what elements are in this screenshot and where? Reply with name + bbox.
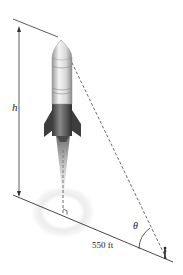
rocket-upper-body (52, 58, 72, 104)
rocket-fin-left (44, 110, 53, 137)
rocket-nose-cone (52, 40, 72, 60)
height-reference-line (13, 19, 58, 37)
distance-label: 550 ft (92, 241, 113, 250)
height-label: h (12, 102, 18, 113)
diagram-canvas (0, 0, 183, 275)
arrow-down-icon (17, 191, 21, 197)
rocket-lower-body (52, 103, 72, 136)
angle-theta-arc (139, 228, 150, 249)
arrow-up-icon (17, 26, 21, 32)
rocket-fin-right (71, 110, 81, 137)
rocket-elevation-diagram: h θ 550 ft (0, 0, 183, 275)
angle-label: θ (133, 221, 138, 231)
exhaust-plume (56, 135, 70, 190)
